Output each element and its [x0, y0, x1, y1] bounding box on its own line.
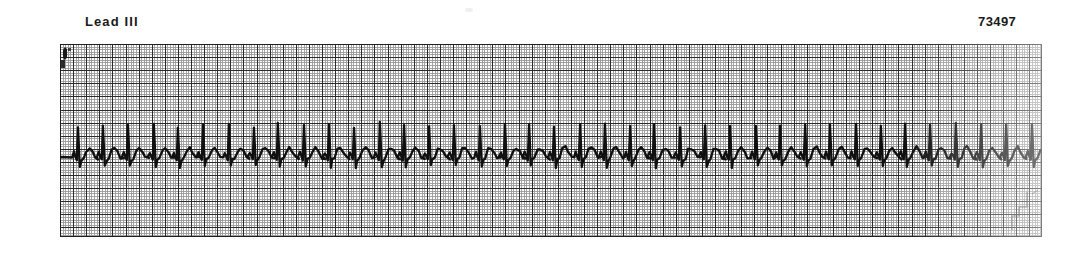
ecg-page: Lead III 73497: [0, 0, 1089, 253]
scan-speck: [465, 8, 473, 12]
record-number: 73497: [978, 14, 1016, 29]
ecg-artifact-marks: [60, 44, 1042, 237]
lead-label: Lead III: [85, 14, 139, 29]
ecg-rhythm-strip: [60, 44, 1042, 237]
